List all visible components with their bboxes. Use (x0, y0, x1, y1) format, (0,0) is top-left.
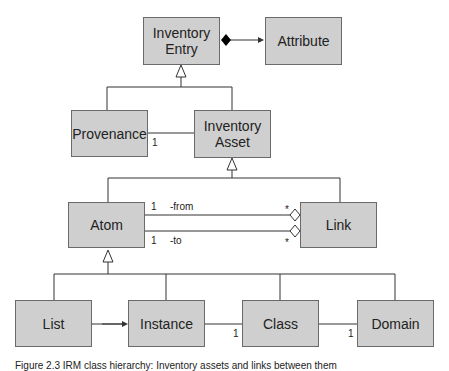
figure-caption: Figure 2.3 IRM class hierarchy: Inventor… (15, 360, 337, 371)
class-atom: Atom (68, 202, 145, 248)
multiplicity-label: 1 (151, 235, 157, 246)
class-instance: Instance (128, 300, 205, 347)
class-inventory-asset: Inventory Asset (194, 110, 271, 158)
generalization-triangle-icon (176, 65, 186, 77)
role-label: -to (170, 235, 182, 246)
multiplicity-label: 1 (151, 201, 157, 212)
class-link: Link (300, 202, 377, 248)
multiplicity-label: 1 (152, 137, 158, 148)
class-attribute: Attribute (265, 17, 342, 65)
generalization-triangle-icon (103, 250, 113, 262)
multiplicity-label: 1 (233, 328, 239, 339)
class-class: Class (242, 300, 319, 347)
class-list: List (15, 300, 92, 347)
class-inventory-entry: Inventory Entry (143, 17, 220, 65)
multiplicity-label: * (285, 237, 289, 248)
composition-diamond-icon (221, 34, 231, 46)
multiplicity-label: 1 (348, 328, 354, 339)
class-domain: Domain (357, 300, 434, 347)
arrowhead-icon (258, 37, 264, 43)
aggregation-diamond-icon (290, 209, 300, 221)
role-label: -from (170, 201, 193, 212)
aggregation-diamond-icon (290, 225, 300, 237)
class-provenance: Provenance (71, 110, 148, 157)
multiplicity-label: * (285, 204, 289, 215)
generalization-triangle-icon (227, 158, 237, 170)
